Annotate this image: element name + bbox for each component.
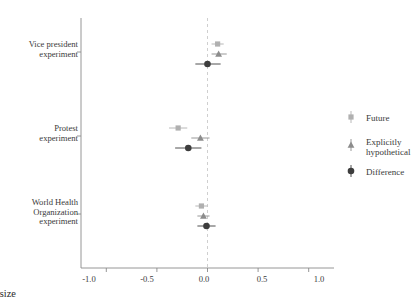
y-axis-label-vice-president: Vice presidentexperiment [29, 40, 78, 59]
legend-circle-marker [348, 168, 355, 175]
y-axis-label-line: experiment [39, 134, 78, 144]
legend-label-future: Future [366, 113, 390, 123]
x-axis-title: Effect size [0, 288, 203, 299]
x-tick-label-neg1: -1.0 [69, 274, 109, 284]
forest-plot-figure: Vice presidentexperiment Protestexperime… [0, 0, 418, 308]
circle-marker [203, 223, 210, 230]
legend-square-marker [348, 114, 353, 119]
y-axis-label-line: experiment [32, 217, 78, 227]
legend-label-line: Difference [366, 167, 404, 177]
y-axis-label-line: experiment [29, 50, 78, 60]
legend-triangle-marker [348, 141, 355, 147]
square-marker [176, 125, 181, 130]
circle-marker [204, 61, 211, 68]
square-marker [215, 41, 220, 46]
legend-label-line: Future [366, 113, 390, 123]
legend-label-line: hypothetical [366, 147, 411, 157]
x-tick-label-neg05: -0.5 [127, 274, 167, 284]
x-tick-label-zero: 0.0 [184, 274, 224, 284]
square-marker [199, 203, 204, 208]
x-tick-label-1: 1.0 [299, 274, 339, 284]
circle-marker [185, 145, 192, 152]
y-axis-label-who: World HealthOrganizationexperiment [32, 198, 78, 227]
legend-label-explicitly-hypothetical: Explicitlyhypothetical [366, 137, 411, 157]
legend-label-difference: Difference [366, 167, 404, 177]
y-axis-label-protest: Protestexperiment [39, 124, 78, 143]
legend-label-line: Explicitly [366, 137, 411, 147]
x-tick-label-05: 0.5 [242, 274, 282, 284]
